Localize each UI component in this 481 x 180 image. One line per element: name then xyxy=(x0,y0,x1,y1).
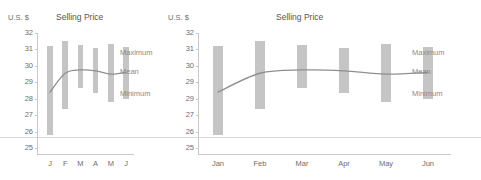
left-annotation-mean: Mean xyxy=(120,67,139,76)
right-annotation-mean: Mean xyxy=(412,67,431,76)
left-plot-area: 3231302928272625JFMAMJMaximumMeanMinimum xyxy=(0,0,160,180)
right-annotation-maximum: Maximum xyxy=(412,48,445,57)
charts-canvas: U.S. $ Selling Price 3231302928272625JFM… xyxy=(0,0,481,180)
left-annotation-maximum: Maximum xyxy=(120,48,153,57)
chart-right: U.S. $ Selling Price 3231302929272625Jan… xyxy=(160,0,481,180)
right-plot-area: 3231302929272625JanFebMarAprMayJunMaximu… xyxy=(160,0,481,180)
chart-left: U.S. $ Selling Price 3231302928272625JFM… xyxy=(0,0,160,180)
right-annotation-minimum: Minimum xyxy=(412,89,442,98)
left-annotation-minimum: Minimum xyxy=(120,89,150,98)
